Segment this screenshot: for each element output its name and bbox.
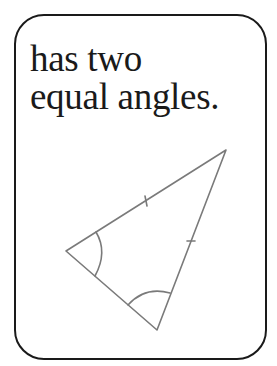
isosceles-triangle-diagram	[0, 0, 277, 366]
triangle-shape	[66, 150, 226, 330]
angle-arc-icon	[128, 291, 170, 305]
tick-mark-icon	[145, 196, 147, 206]
angle-arc-icon	[95, 232, 102, 276]
